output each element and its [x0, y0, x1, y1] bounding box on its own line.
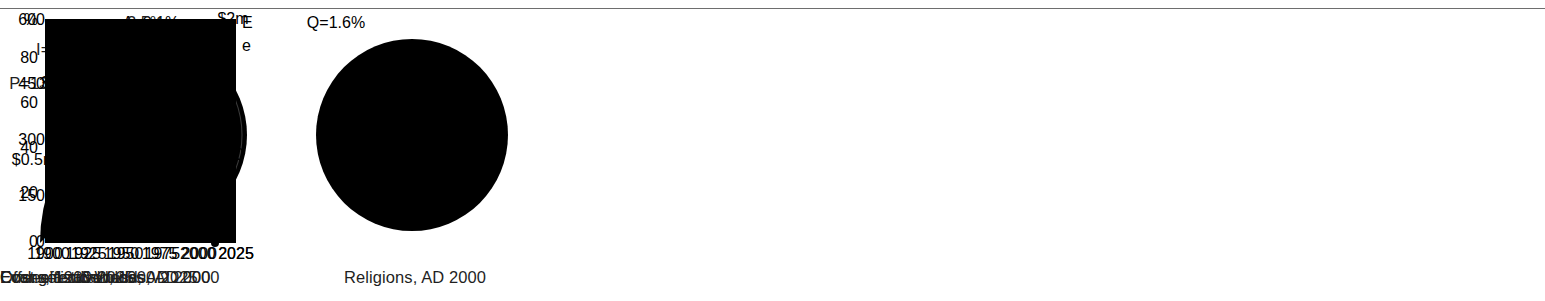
panel-religions: Q=1.6% C=97.0% Religions, AD 2000 [290, 0, 540, 301]
gauge-readout-line-2: baptism = $458,000 [103, 146, 244, 163]
slice-label-q: Q=1.6% [307, 14, 365, 31]
gauge-scale-label-1-5m: $1.5m [117, 36, 161, 53]
cost-effectiveness-gauge: $0.5m $1 million $1.5m $2m Cost per bapt… [0, 0, 257, 265]
panel-caption: Religions, AD 2000 [290, 268, 540, 287]
gauge-scale-label-1-million: $1 million [41, 74, 109, 91]
slice-label-c: C=97.0% [379, 176, 445, 193]
gauge-scale-label-2m: $2m [217, 10, 248, 27]
figure-strip: A=0.1% B=2.9% C=97.0% 3 Worlds, AD 2000 … [0, 0, 1545, 301]
religions-pie-chart: Q=1.6% C=97.0% [290, 0, 540, 260]
gauge-readout-line-1: Cost per [103, 126, 164, 143]
gauge-scale-label-0-5m: $0.5m [12, 151, 56, 168]
